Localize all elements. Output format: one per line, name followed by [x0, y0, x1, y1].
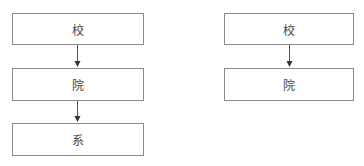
arrow-down-icon	[75, 101, 81, 122]
arrow-down-icon	[75, 45, 81, 67]
arrow-down-icon	[287, 45, 293, 67]
connector-arrows	[0, 0, 364, 166]
